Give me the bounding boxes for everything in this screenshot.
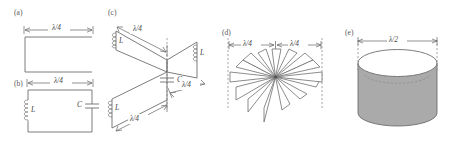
panel-b-dimension: λ/4 bbox=[27, 75, 93, 87]
panel-d-dim-label-right: λ/4 bbox=[289, 39, 299, 48]
panel-b: (b) λ/4 L C bbox=[14, 75, 99, 132]
panel-d-label: (d) bbox=[222, 28, 231, 37]
panel-d: (d) λ/4 λ/4 bbox=[222, 28, 322, 122]
panel-c-inductor-right-icon bbox=[193, 45, 197, 61]
panel-d-fin-array bbox=[230, 49, 322, 122]
panel-b-dim-label: λ/4 bbox=[53, 76, 63, 85]
panel-d-center-node bbox=[274, 75, 277, 78]
panel-b-capacitor-icon bbox=[85, 100, 99, 112]
figure-panel-group: (a) λ/4 (b) λ/4 bbox=[0, 0, 449, 149]
panel-a: (a) λ/4 bbox=[14, 8, 93, 72]
panel-b-loop bbox=[28, 90, 92, 132]
panel-a-dim-label: λ/4 bbox=[51, 23, 61, 32]
panel-c-dim-label-right: λ/4 bbox=[181, 80, 191, 89]
panel-e-dimension: λ/2 bbox=[358, 34, 437, 45]
panel-c-inductor-lower-left-icon bbox=[108, 101, 112, 117]
panel-a-label: (a) bbox=[14, 8, 23, 17]
panel-c-dimension-upper: λ/4 bbox=[117, 24, 167, 57]
panel-e-cylinder-top bbox=[358, 50, 437, 77]
panel-e-dim-label: λ/2 bbox=[388, 35, 398, 44]
panel-c-dimension-lower: λ/4 bbox=[116, 100, 167, 131]
panel-b-inductor-label: L bbox=[30, 105, 35, 114]
panel-e-label: (e) bbox=[345, 28, 354, 37]
panel-c-plane-upper-left bbox=[116, 31, 167, 72]
panel-d-dimension: λ/4 λ/4 bbox=[229, 38, 321, 49]
panel-c-inductor-lower-left-label: L bbox=[114, 103, 119, 112]
panel-b-capacitor-label: C bbox=[77, 100, 83, 109]
panel-e: (e) λ/2 bbox=[345, 28, 437, 126]
panel-d-dim-label-left: λ/4 bbox=[242, 39, 252, 48]
panel-c: (c) L L L C bbox=[108, 8, 205, 131]
panel-a-dimension: λ/4 bbox=[24, 22, 93, 34]
panel-c-plane-right bbox=[167, 42, 197, 78]
panel-b-inductor-icon bbox=[24, 100, 28, 122]
panel-c-inductor-right-label: L bbox=[199, 48, 204, 57]
figure-svg: (a) λ/4 (b) λ/4 bbox=[0, 0, 449, 149]
panel-c-dim-label-upper: λ/4 bbox=[132, 24, 142, 33]
panel-c-label: (c) bbox=[108, 8, 117, 17]
panel-c-dimension-right: λ/4 bbox=[168, 80, 205, 98]
panel-c-inductor-upper-left-label: L bbox=[118, 36, 123, 45]
panel-c-inductor-upper-left-icon bbox=[112, 33, 116, 48]
panel-a-transmission-line bbox=[25, 37, 92, 72]
panel-b-label: (b) bbox=[14, 79, 23, 88]
panel-c-dim-label-lower: λ/4 bbox=[129, 114, 139, 123]
